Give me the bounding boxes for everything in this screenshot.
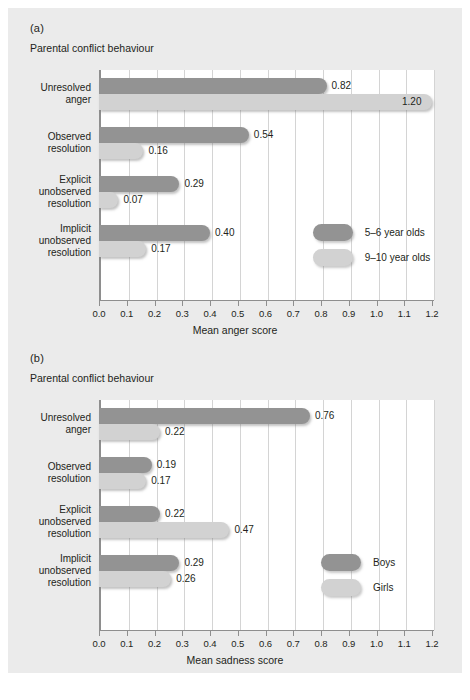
x-axis-line-a	[99, 300, 434, 301]
category-label-line: Implicit	[8, 223, 91, 235]
x-axis-tick-label: 0.4	[203, 638, 216, 649]
category-label-line: resolution	[8, 247, 91, 259]
legend-label: Girls	[373, 579, 394, 596]
x-axis-tick-label: 0.0	[92, 638, 105, 649]
gridline	[295, 400, 296, 630]
x-axis-tick	[293, 631, 294, 636]
x-axis-tick-label: 0.4	[203, 308, 216, 319]
x-axis-tick-label: 1.2	[425, 308, 438, 319]
category-label-line: unobserved	[8, 565, 91, 577]
bar-value-label: 0.17	[151, 241, 170, 257]
x-axis-tick-label: 1.1	[398, 308, 411, 319]
category-label: Observedresolution	[8, 131, 91, 155]
bar	[99, 571, 171, 587]
bar	[99, 143, 143, 159]
category-label-line: unobserved	[8, 516, 91, 528]
x-axis-line-b	[99, 630, 434, 631]
x-axis-tick-label: 0.2	[148, 308, 161, 319]
x-axis-tick-label: 0.7	[287, 308, 300, 319]
x-axis-tick	[182, 631, 183, 636]
gridline	[268, 400, 269, 630]
x-axis-tick	[238, 301, 239, 306]
category-label-line: anger	[8, 94, 91, 106]
bar	[99, 408, 310, 424]
category-label: Unresolvedanger	[8, 412, 91, 436]
bar	[99, 192, 118, 208]
bar-value-label: 0.54	[254, 127, 273, 143]
bar	[99, 522, 229, 538]
gridline	[323, 400, 324, 630]
legend-swatch	[313, 249, 353, 266]
x-axis-tick-label: 0.1	[120, 638, 133, 649]
x-axis-tick	[99, 631, 100, 636]
legend-label: 5–6 year olds	[365, 224, 425, 241]
legend-label: Boys	[373, 554, 395, 571]
legend-swatch	[321, 579, 361, 596]
x-axis-tick	[238, 631, 239, 636]
x-axis-tick	[266, 301, 267, 306]
x-axis-tick	[99, 301, 100, 306]
x-axis-tick-label: 1.2	[425, 638, 438, 649]
bar	[99, 176, 179, 192]
bar-value-label: 1.20	[402, 94, 421, 110]
category-label-line: Explicit	[8, 504, 91, 516]
legend-swatch	[321, 554, 361, 571]
legend-swatch	[313, 224, 353, 241]
x-axis-tick	[377, 631, 378, 636]
x-axis-tick-label: 0.8	[314, 638, 327, 649]
x-axis-tick-label: 0.5	[231, 308, 244, 319]
gridline	[240, 400, 241, 630]
x-axis-tick	[321, 301, 322, 306]
category-label-line: Unresolved	[8, 82, 91, 94]
x-axis-tick-label: 0.3	[176, 638, 189, 649]
x-axis-tick-label: 0.9	[342, 638, 355, 649]
x-axis-tick	[432, 631, 433, 636]
gridline	[406, 400, 407, 630]
category-label-line: Implicit	[8, 553, 91, 565]
category-label-line: Observed	[8, 131, 91, 143]
x-axis-tick	[155, 301, 156, 306]
panel-subtitle-a: Parental conflict behaviour	[30, 42, 154, 54]
x-axis-tick	[266, 631, 267, 636]
x-axis-tick-label: 0.9	[342, 308, 355, 319]
bar	[99, 127, 249, 143]
figure-panel: (a) Parental conflict behaviour 0.00.10.…	[8, 8, 462, 673]
bar-value-label: 0.22	[165, 424, 184, 440]
category-label: Explicitunobservedresolution	[8, 174, 91, 210]
bar	[99, 225, 210, 241]
x-axis-tick	[155, 631, 156, 636]
category-label-line: anger	[8, 424, 91, 436]
category-label: Unresolvedanger	[8, 82, 91, 106]
gridline	[434, 70, 435, 300]
x-axis-tick-label: 1.0	[370, 308, 383, 319]
gridline	[212, 400, 213, 630]
bar	[99, 94, 432, 110]
bar-value-label: 0.40	[215, 225, 234, 241]
category-label-line: resolution	[8, 143, 91, 155]
category-label-line: unobserved	[8, 235, 91, 247]
category-label: Implicitunobservedresolution	[8, 223, 91, 259]
x-axis-tick	[293, 301, 294, 306]
bar-value-label: 0.76	[315, 408, 334, 424]
panel-subtitle-b: Parental conflict behaviour	[30, 372, 154, 384]
bar	[99, 473, 146, 489]
category-label-line: unobserved	[8, 186, 91, 198]
chart-panel-b: (b) Parental conflict behaviour 0.00.10.…	[8, 342, 462, 672]
x-axis-tick	[349, 631, 350, 636]
bar	[99, 78, 327, 94]
x-axis-tick-label: 1.0	[370, 638, 383, 649]
bar-value-label: 0.22	[165, 506, 184, 522]
bar	[99, 241, 146, 257]
category-label-line: resolution	[8, 473, 91, 485]
x-axis-tick	[404, 301, 405, 306]
x-axis-tick	[127, 301, 128, 306]
x-axis-tick-label: 0.0	[92, 308, 105, 319]
x-axis-tick-label: 1.1	[398, 638, 411, 649]
x-axis-tick-label: 0.1	[120, 308, 133, 319]
x-axis-tick	[127, 631, 128, 636]
x-axis-tick	[404, 631, 405, 636]
category-label: Implicitunobservedresolution	[8, 553, 91, 589]
x-axis-tick	[182, 301, 183, 306]
bar-value-label: 0.26	[176, 571, 195, 587]
x-axis-tick-label: 0.7	[287, 638, 300, 649]
